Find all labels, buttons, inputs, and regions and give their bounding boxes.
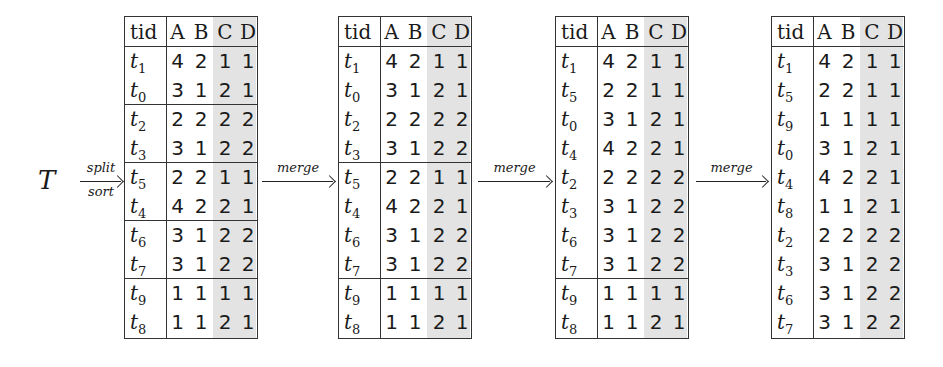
value-a: 3 <box>813 250 836 279</box>
value-c: 2 <box>644 221 668 250</box>
value-b: 2 <box>189 192 213 221</box>
value-d: 1 <box>237 308 259 337</box>
value-a: 3 <box>597 105 620 134</box>
value-c: 2 <box>213 76 237 105</box>
table-row: t91111 <box>125 279 257 308</box>
value-b: 1 <box>189 250 213 279</box>
value-a: 4 <box>380 192 403 221</box>
header-d: D <box>451 17 473 47</box>
value-d: 1 <box>451 308 473 337</box>
tid-cell: t8 <box>772 192 818 221</box>
value-c: 1 <box>427 163 451 192</box>
value-d: 2 <box>668 250 690 279</box>
value-c: 2 <box>644 250 668 279</box>
header-tid: tid <box>339 17 385 47</box>
value-c: 2 <box>213 308 237 337</box>
value-d: 1 <box>884 105 906 134</box>
value-b: 1 <box>403 308 427 337</box>
split-sort-arrow: splitsort <box>80 160 122 204</box>
table-after-merge-2: tidABCDt14211t52211t03121t44221t22222t33… <box>555 16 689 339</box>
table-row: t44221 <box>339 192 471 221</box>
value-d: 2 <box>237 221 259 250</box>
header-tid: tid <box>125 17 171 47</box>
value-c: 2 <box>860 134 884 163</box>
value-c: 2 <box>427 76 451 105</box>
value-d: 1 <box>884 163 906 192</box>
table-row: t22222 <box>556 163 688 192</box>
value-a: 4 <box>166 47 189 76</box>
value-a: 1 <box>380 308 403 337</box>
value-a: 4 <box>597 134 620 163</box>
value-a: 3 <box>166 76 189 105</box>
value-a: 2 <box>597 76 620 105</box>
value-c: 1 <box>213 279 237 308</box>
value-c: 1 <box>860 76 884 105</box>
value-c: 1 <box>644 47 668 76</box>
value-b: 2 <box>403 192 427 221</box>
tid-cell: t1 <box>556 47 602 76</box>
value-b: 1 <box>620 279 644 308</box>
table-row: t81121 <box>125 308 257 337</box>
value-a: 1 <box>380 279 403 308</box>
value-c: 2 <box>213 250 237 279</box>
value-b: 2 <box>620 76 644 105</box>
tid-cell: t0 <box>772 134 818 163</box>
header-a: A <box>380 17 403 47</box>
tid-cell: t5 <box>556 76 602 105</box>
table-row: t52211 <box>339 163 471 192</box>
value-d: 2 <box>668 221 690 250</box>
value-b: 1 <box>189 76 213 105</box>
tid-cell: t3 <box>339 134 385 163</box>
table-row: t91111 <box>339 279 471 308</box>
value-b: 1 <box>620 105 644 134</box>
value-b: 1 <box>403 221 427 250</box>
table-row: t03121 <box>125 76 257 105</box>
tid-cell: t3 <box>772 250 818 279</box>
value-d: 1 <box>668 134 690 163</box>
tid-cell: t4 <box>339 192 385 221</box>
value-a: 4 <box>597 47 620 76</box>
tid-cell: t7 <box>556 250 602 279</box>
table-row: t63122 <box>556 221 688 250</box>
table-row: t81121 <box>772 192 904 221</box>
value-b: 2 <box>836 163 860 192</box>
table-row: t52211 <box>125 163 257 192</box>
table-row: t91111 <box>556 279 688 308</box>
value-b: 1 <box>403 134 427 163</box>
table-row: t14211 <box>556 47 688 76</box>
value-b: 2 <box>836 221 860 250</box>
header-b: B <box>189 17 213 47</box>
value-d: 2 <box>884 221 906 250</box>
value-d: 1 <box>451 192 473 221</box>
value-b: 1 <box>189 134 213 163</box>
value-a: 4 <box>813 163 836 192</box>
value-d: 1 <box>237 47 259 76</box>
tid-cell: t4 <box>772 163 818 192</box>
tid-cell: t4 <box>556 134 602 163</box>
tid-cell: t2 <box>772 221 818 250</box>
value-a: 3 <box>380 76 403 105</box>
value-d: 1 <box>668 279 690 308</box>
value-b: 1 <box>836 279 860 308</box>
table-row: t63122 <box>772 279 904 308</box>
value-c: 2 <box>427 221 451 250</box>
table-row: t33122 <box>125 134 257 163</box>
value-a: 3 <box>380 134 403 163</box>
tid-cell: t1 <box>339 47 385 76</box>
value-b: 1 <box>836 250 860 279</box>
value-d: 2 <box>237 250 259 279</box>
value-d: 1 <box>884 192 906 221</box>
table-row: t73122 <box>772 308 904 337</box>
value-a: 4 <box>166 192 189 221</box>
table-row: t33122 <box>339 134 471 163</box>
value-a: 4 <box>813 47 836 76</box>
value-d: 1 <box>451 76 473 105</box>
value-a: 3 <box>597 250 620 279</box>
header-a: A <box>166 17 189 47</box>
value-c: 1 <box>860 105 884 134</box>
value-a: 3 <box>166 134 189 163</box>
value-c: 2 <box>427 192 451 221</box>
value-d: 2 <box>451 134 473 163</box>
value-c: 1 <box>860 47 884 76</box>
value-b: 2 <box>403 163 427 192</box>
